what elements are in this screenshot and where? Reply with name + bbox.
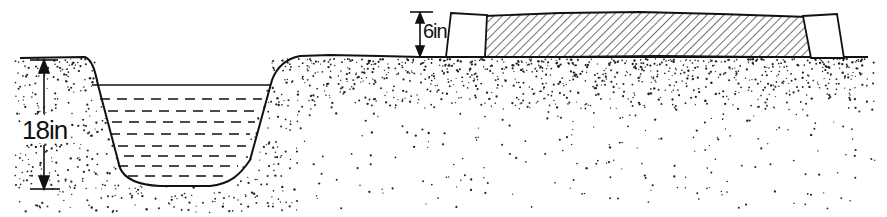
water-dashes [100, 99, 262, 176]
trench-depth-label: 18in [22, 117, 67, 143]
bed-end-block-right [803, 14, 844, 58]
raised-bed-hatched [485, 12, 818, 57]
bed-height-label: 6in [423, 21, 447, 41]
bed-end-block-left [446, 13, 487, 57]
soil-stipple [14, 58, 875, 214]
